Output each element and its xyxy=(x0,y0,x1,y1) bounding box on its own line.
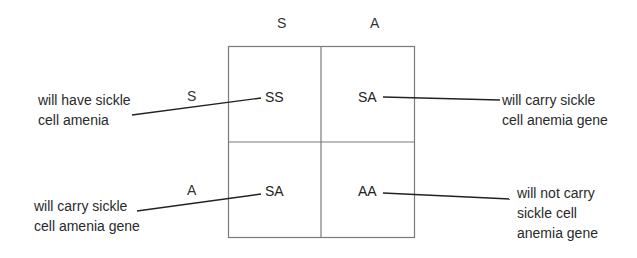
column-allele-s: S xyxy=(277,15,286,31)
annotation-sa-bottom: will carry sickle cell amenia gene xyxy=(34,196,140,236)
column-allele-a: A xyxy=(370,15,379,31)
leader-line-ss xyxy=(132,98,261,115)
annotation-line: sickle cell xyxy=(517,203,598,223)
leader-line-sa-top xyxy=(383,97,500,100)
annotation-sa-top: will carry sickle cell anemia gene xyxy=(502,90,608,130)
annotation-line: cell amenia gene xyxy=(34,216,140,236)
annotation-line: cell amenia xyxy=(38,110,131,130)
leader-line-sa-bottom xyxy=(137,194,261,211)
genotype-aa: AA xyxy=(358,183,377,199)
annotation-line: will carry sickle xyxy=(502,90,608,110)
row-allele-a: A xyxy=(187,182,196,198)
leader-line-aa xyxy=(383,193,510,199)
annotation-line: will carry sickle xyxy=(34,196,140,216)
annotation-line: will have sickle xyxy=(38,90,131,110)
annotation-line: cell anemia gene xyxy=(502,110,608,130)
row-allele-s: S xyxy=(187,88,196,104)
genotype-sa-bottom: SA xyxy=(265,183,284,199)
genotype-ss: SS xyxy=(265,89,284,105)
genotype-sa-top: SA xyxy=(358,89,377,105)
annotation-line: anemia gene xyxy=(517,223,598,243)
punnett-grid xyxy=(228,46,415,238)
annotation-aa: will not carry sickle cell anemia gene xyxy=(517,183,598,243)
annotation-ss: will have sickle cell amenia xyxy=(38,90,131,130)
annotation-line: will not carry xyxy=(517,183,598,203)
